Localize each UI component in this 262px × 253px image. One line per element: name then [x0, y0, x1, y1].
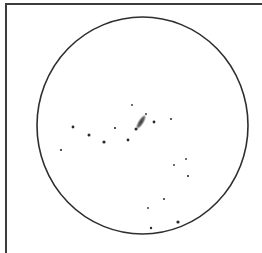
star [163, 198, 165, 200]
star [145, 113, 147, 115]
star [60, 149, 62, 151]
star [185, 158, 187, 160]
star [173, 164, 175, 166]
star [187, 175, 189, 177]
star [170, 118, 172, 120]
star [153, 121, 156, 124]
star [88, 134, 91, 137]
star [102, 140, 105, 143]
star [176, 220, 179, 223]
star [114, 127, 116, 129]
eyepiece-sketch [0, 0, 262, 253]
star [150, 227, 152, 229]
paper-background [0, 0, 262, 253]
star [131, 104, 133, 106]
star [72, 126, 75, 129]
star [147, 207, 149, 209]
star [127, 139, 130, 142]
star [135, 128, 138, 131]
